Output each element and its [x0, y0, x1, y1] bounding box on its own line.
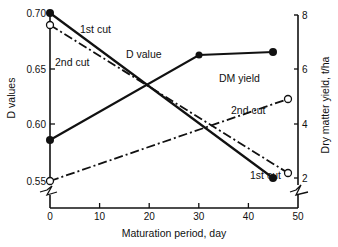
- marker-open: [47, 178, 54, 185]
- x-axis-title: Maturation period, day: [122, 227, 227, 239]
- y-left-tick-label: 0.55: [27, 176, 47, 187]
- y-left-tick-label: 0.70: [27, 8, 47, 19]
- y-right-tick-label: 6: [302, 64, 308, 75]
- d-value-2nd-cut-line: [50, 25, 288, 173]
- d-value-1st-cut-line: [50, 13, 273, 178]
- markers: [46, 9, 292, 185]
- marker-open: [285, 96, 292, 103]
- marker-filled: [46, 136, 54, 144]
- x-tick-label: 20: [144, 211, 156, 222]
- annotation-d-value: D value: [126, 48, 162, 60]
- annotation-d-2nd-cut: 2nd cut: [55, 56, 90, 68]
- annotation-dm-1st-cut-lower: 1st cut: [250, 169, 281, 181]
- y-right-axis-title: Dry matter yield, t/ha: [319, 56, 331, 153]
- x-tick-label: 50: [292, 211, 304, 222]
- y-left-tick-label: 0.60: [27, 119, 47, 130]
- marker-filled: [46, 9, 54, 17]
- x-tick-label: 30: [193, 211, 205, 222]
- y-left-axis-title: D values: [5, 78, 17, 119]
- marker-filled: [196, 52, 203, 59]
- annotation-d-1st-cut: 1st cut: [80, 23, 111, 35]
- x-tick-label: 40: [243, 211, 255, 222]
- marker-filled: [269, 48, 277, 56]
- left-axis-break: [40, 186, 57, 195]
- annotation-dm-2nd-cut: 2nd cut: [231, 104, 266, 116]
- chart: 0 10 20 30 40 50 Maturation period, day …: [0, 0, 338, 247]
- x-tick-label: 0: [47, 211, 53, 222]
- y-right-tick-label: 8: [302, 10, 308, 21]
- marker-open: [47, 22, 54, 29]
- y-right-tick-label: 2: [302, 173, 308, 184]
- marker-open: [285, 170, 292, 177]
- y-right-tick-label: 4: [302, 119, 308, 130]
- right-axis-break: [290, 185, 308, 195]
- y-left-tick-label: 0.65: [27, 64, 47, 75]
- annotation-dm-yield: DM yield: [219, 72, 260, 84]
- x-tick-label: 10: [94, 211, 106, 222]
